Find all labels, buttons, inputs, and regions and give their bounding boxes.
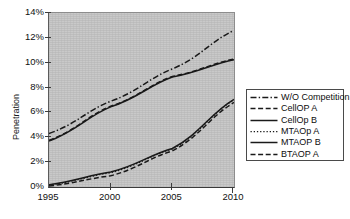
series-lines [49,13,234,187]
y-tick-label: 12% [14,31,44,42]
y-tick-label: 6% [14,105,44,116]
series-line [49,102,234,186]
x-tick-label: 2010 [213,191,253,202]
y-tick-label: 14% [14,6,44,17]
legend-item: CellOp B [249,115,343,126]
legend-item-label: CellOp B [279,115,317,126]
chart-legend: W/O CompetitionCellOP ACellOp BMTAOp AMT… [246,89,344,161]
x-tick-label: 2000 [90,191,130,202]
legend-item-label: CellOP A [279,103,317,114]
legend-line-swatch-icon [249,115,279,126]
series-line [49,100,234,185]
y-tick-mark [45,161,51,162]
legend-item: MTAOP B [249,137,343,148]
series-line [49,59,234,140]
series-line [49,60,234,141]
legend-item: W/O Competition [249,92,343,103]
legend-item: CellOP A [249,103,343,114]
x-tick-mark [171,183,172,190]
y-tick-mark [45,111,51,112]
x-tick-mark [110,183,111,190]
y-tick-label: 10% [14,56,44,67]
y-tick-mark [45,87,51,88]
series-line [49,99,234,184]
y-tick-mark [45,37,51,38]
y-tick-mark [45,12,51,13]
legend-item-label: W/O Competition [279,92,350,103]
y-tick-label: 0% [14,180,44,191]
legend-line-swatch-icon [249,103,279,114]
legend-item: MTAOp A [249,126,343,137]
y-tick-label: 8% [14,81,44,92]
legend-item-label: BTAOP A [279,149,319,160]
y-tick-label: 2% [14,155,44,166]
y-tick-mark [45,62,51,63]
legend-item-label: MTAOp A [279,126,319,137]
x-tick-label: 2005 [151,191,191,202]
legend-line-swatch-icon [249,126,279,137]
plot-area [48,12,235,188]
legend-item: BTAOP A [249,148,343,159]
x-tick-label: 1995 [28,191,68,202]
legend-line-swatch-icon [249,92,279,103]
legend-line-swatch-icon [249,149,279,160]
x-tick-mark [232,187,233,193]
legend-line-swatch-icon [249,137,279,148]
y-tick-mark [45,136,51,137]
series-line [49,30,234,133]
legend-item-label: MTAOP B [279,137,321,148]
y-tick-label: 4% [14,130,44,141]
